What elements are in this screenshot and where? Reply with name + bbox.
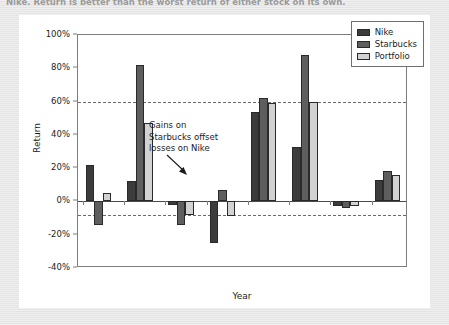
bar-nike-1999 [86,165,95,202]
bar-starbucks-2004 [301,55,310,201]
x-tick-mark [207,201,208,205]
reference-line [78,102,406,103]
chart-card: Return Year 100%80%60%40%20%0%-20%-40% 1… [19,15,430,308]
legend-item-starbucks: Starbucks [357,38,417,50]
bar-starbucks-1999 [94,201,103,224]
legend-label-nike: Nike [375,28,394,37]
bar-nike-2005 [333,201,342,206]
x-axis-label: Year [77,291,407,301]
legend-swatch-nike [357,29,370,36]
legend-item-portfolio: Portfolio [357,50,417,62]
annotation-arrow-icon [166,154,192,178]
chart-figure: Return Year 100%80%60%40%20%0%-20%-40% 1… [19,15,430,308]
legend-swatch-starbucks [357,41,370,48]
annotation-line-2: Starbucks offset [149,132,249,144]
annotation-line-1: Gains on [149,120,249,132]
y-tick-label: 20% [24,162,70,172]
legend-label-portfolio: Portfolio [375,52,410,61]
annotation-line-3: losses on Nike [149,143,249,155]
bar-portfolio-1999 [103,193,112,201]
y-tick-label: 60% [24,96,70,106]
bar-nike-2003 [251,112,260,202]
x-tick-mark [124,201,125,205]
bar-nike-2004 [292,147,301,202]
bar-portfolio-2002 [227,201,236,216]
y-tick-label: 40% [24,129,70,139]
y-tick-label: 100% [24,29,70,39]
bar-portfolio-2001 [185,201,194,214]
bar-portfolio-2004 [309,102,318,202]
bar-starbucks-2000 [136,65,145,201]
bar-nike-2001 [168,201,177,204]
bar-starbucks-2006 [383,171,392,201]
x-tick-mark [165,201,166,205]
x-tick-mark [289,201,290,205]
y-tick-label: -40% [24,262,70,272]
reference-line [78,215,406,216]
bar-portfolio-2006 [392,175,401,202]
legend-item-nike: Nike [357,26,417,38]
y-tick-label: -20% [24,229,70,239]
legend-label-starbucks: Starbucks [375,40,417,49]
y-tick-label: 0% [24,195,70,205]
bar-starbucks-2001 [177,201,186,224]
bar-portfolio-2003 [268,103,277,201]
x-tick-mark [372,201,373,205]
legend-swatch-portfolio [357,53,370,60]
bar-starbucks-2002 [218,190,227,202]
bar-starbucks-2003 [259,98,268,201]
bar-nike-2000 [127,181,136,201]
bar-nike-2006 [375,180,384,202]
bar-starbucks-2005 [342,201,351,208]
y-tick-label: 80% [24,62,70,72]
bar-nike-2002 [210,201,219,243]
top-caption: Nike. Return is better than the worst re… [6,0,446,9]
chart-annotation: Gains on Starbucks offset losses on Nike [149,120,249,155]
chart-legend: Nike Starbucks Portfolio [351,21,424,67]
x-tick-mark [248,201,249,205]
x-tick-mark [330,201,331,205]
bar-portfolio-2005 [350,201,359,206]
x-tick-mark [83,201,84,205]
